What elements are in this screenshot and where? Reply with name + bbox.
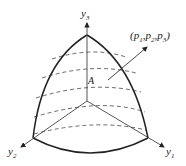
solid-region-diagram: y3 y2 y1 A (p1,p2,p3)	[0, 0, 186, 166]
y1-label: y1	[165, 145, 174, 160]
region-label-a: A	[87, 75, 95, 86]
y2-axis	[21, 101, 87, 147]
y2-label: y2	[7, 145, 17, 160]
dashed-level-curves	[34, 52, 146, 134]
normal-arrow	[108, 47, 147, 80]
y3-label: y3	[80, 7, 90, 22]
point-label: (p1,p2,p3)	[130, 29, 170, 44]
y1-axis	[87, 101, 164, 147]
